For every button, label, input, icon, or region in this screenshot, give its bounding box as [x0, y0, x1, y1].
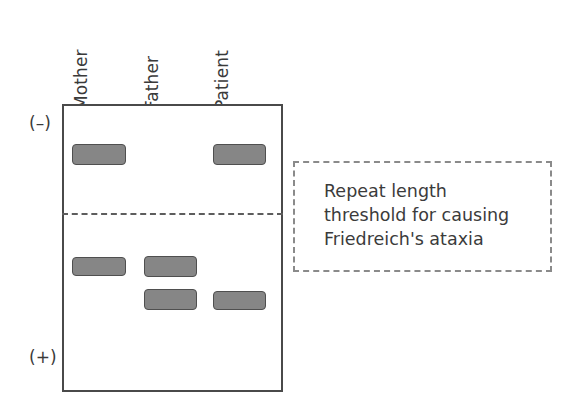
- polarity-marker-negative: (–): [29, 113, 51, 133]
- threshold-callout-text: Repeat length threshold for causing Frie…: [324, 179, 509, 251]
- dna-band-patient-lower: [213, 291, 266, 310]
- lane-label-father: Father: [142, 56, 162, 110]
- dna-band-father-lower: [144, 289, 197, 310]
- lane-label-mother: Mother: [71, 49, 91, 110]
- dna-band-patient-upper: [213, 144, 266, 165]
- polarity-marker-positive: (+): [29, 347, 57, 367]
- threshold-callout-box: Repeat length threshold for causing Frie…: [293, 161, 552, 272]
- gel-electrophoresis-figure: Mother Father Patient (–) (+) Repeat len…: [0, 0, 584, 418]
- dna-band-mother-lower: [72, 257, 126, 276]
- dna-band-mother-upper: [72, 144, 126, 165]
- lane-label-patient: Patient: [212, 50, 232, 110]
- dna-band-father-upper: [144, 256, 197, 277]
- repeat-length-threshold-line: [62, 213, 283, 215]
